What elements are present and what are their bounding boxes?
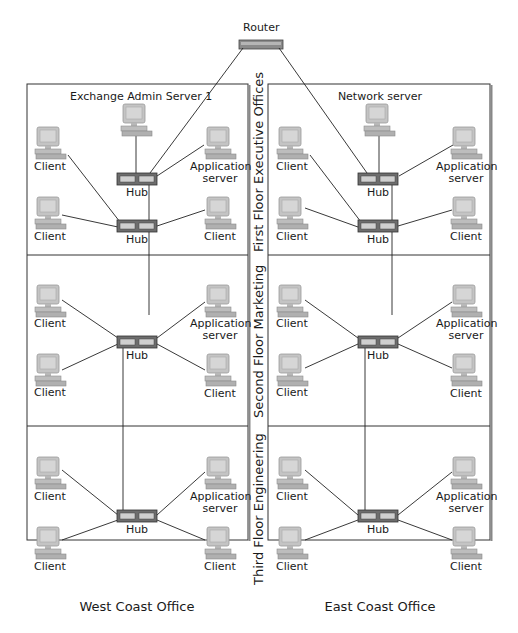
client-icon — [451, 527, 482, 559]
east-server-label: Network server — [320, 91, 440, 103]
hub-label: Hub — [361, 350, 395, 362]
app-server-label-2: server — [436, 503, 496, 515]
router-label: Router — [243, 22, 279, 34]
hub-east-f1-lower — [358, 220, 398, 232]
server-east-icon — [364, 104, 395, 136]
office-label-east: East Coast Office — [300, 599, 460, 614]
app-server-icon — [205, 457, 236, 489]
hub-east-f3 — [358, 510, 398, 522]
app-server-label-2: server — [436, 330, 496, 342]
client-icon — [205, 197, 236, 229]
hub-west-f1-upper — [117, 173, 157, 185]
client-icon — [35, 354, 66, 386]
client-icon — [277, 354, 308, 386]
floor-label-second: Second Floor Marketing — [251, 265, 266, 418]
client-label: Client — [200, 388, 240, 400]
client-label: Client — [30, 561, 70, 573]
client-icon — [277, 127, 308, 159]
hub-west-f2 — [117, 336, 157, 348]
app-server-icon — [451, 285, 482, 317]
hub-label: Hub — [120, 187, 154, 199]
office-label-west: West Coast Office — [57, 599, 217, 614]
client-label: Client — [272, 231, 312, 243]
client-label: Client — [272, 561, 312, 573]
client-icon — [205, 527, 236, 559]
client-label: Client — [200, 231, 240, 243]
app-server-icon — [205, 127, 236, 159]
hub-label: Hub — [120, 234, 154, 246]
hub-west-f3 — [117, 510, 157, 522]
west-server-label: Exchange Admin Server 1 — [70, 91, 210, 103]
hub-label: Hub — [120, 524, 154, 536]
hub-east-f1-upper — [358, 173, 398, 185]
client-icon — [277, 197, 308, 229]
client-icon — [205, 354, 236, 386]
app-server-label-2: server — [190, 330, 250, 342]
client-icon — [35, 285, 66, 317]
hub-label: Hub — [120, 350, 154, 362]
client-label: Client — [446, 231, 486, 243]
floor-label-third: Third Floor Engineering — [251, 433, 266, 585]
app-server-label-2: server — [436, 173, 496, 185]
hub-east-f2 — [358, 336, 398, 348]
client-icon — [277, 285, 308, 317]
client-label: Client — [272, 491, 312, 503]
app-server-label-2: server — [190, 173, 250, 185]
server-west-icon — [121, 104, 152, 136]
hub-label: Hub — [361, 234, 395, 246]
hub-label: Hub — [361, 524, 395, 536]
client-icon — [35, 197, 66, 229]
app-server-label-2: server — [190, 503, 250, 515]
router — [239, 40, 283, 49]
client-icon — [451, 354, 482, 386]
client-label: Client — [272, 161, 312, 173]
client-label: Client — [30, 387, 70, 399]
app-server-icon — [451, 457, 482, 489]
client-icon — [451, 197, 482, 229]
client-icon — [35, 527, 66, 559]
client-label: Client — [30, 161, 70, 173]
client-label: Client — [446, 561, 486, 573]
client-label: Client — [30, 491, 70, 503]
hub-label: Hub — [361, 187, 395, 199]
app-server-icon — [451, 127, 482, 159]
floor-label-first: First Floor Executive Offices — [251, 72, 266, 252]
client-label: Client — [30, 231, 70, 243]
client-icon — [277, 527, 308, 559]
client-icon — [277, 457, 308, 489]
client-icon — [35, 127, 66, 159]
client-label: Client — [272, 387, 312, 399]
client-icon — [35, 457, 66, 489]
client-label: Client — [30, 318, 70, 330]
client-label: Client — [272, 318, 312, 330]
hub-west-f1-lower — [117, 220, 157, 232]
app-server-icon — [205, 285, 236, 317]
client-label: Client — [200, 561, 240, 573]
client-label: Client — [446, 388, 486, 400]
